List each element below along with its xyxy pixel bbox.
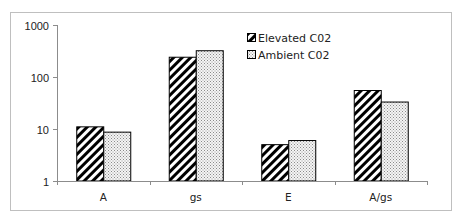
- bar-elevated: [77, 127, 104, 181]
- bar-ambient: [381, 102, 408, 181]
- bar-ambient: [104, 132, 131, 181]
- y-tick-label: 10: [37, 124, 49, 136]
- bar-ambient: [289, 141, 316, 181]
- category-label: gs: [190, 191, 202, 203]
- y-tick-label: 100: [31, 72, 49, 84]
- legend-label: Elevated C02: [258, 32, 331, 45]
- y-tick-label: 1000: [25, 20, 49, 32]
- bar-ambient: [196, 51, 223, 181]
- bar-elevated: [354, 91, 381, 181]
- category-label: A/gs: [369, 191, 392, 203]
- legend-label: Ambient C02: [258, 49, 330, 62]
- category-label: A: [100, 191, 108, 203]
- bar-chart: 1101001000 AgsEA/gs Elevated C02Ambient …: [0, 0, 462, 224]
- y-tick-label: 1: [43, 176, 49, 188]
- legend-swatch: [248, 51, 256, 59]
- bar-elevated: [262, 145, 289, 181]
- category-label: E: [285, 191, 292, 203]
- bar-elevated: [169, 57, 196, 181]
- legend-swatch: [248, 34, 256, 42]
